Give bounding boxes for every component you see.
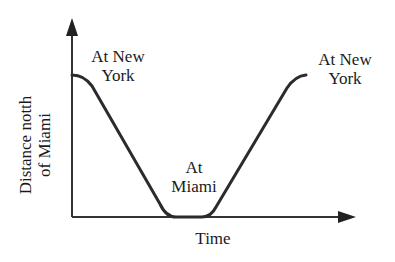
annotation-start-new-york: At New York (78, 47, 158, 85)
y-axis-label-line1: Distance notth (16, 75, 35, 215)
distance-time-diagram: Distance notth of Miami Time At New York… (0, 0, 395, 262)
x-axis-arrow-icon (338, 211, 356, 223)
y-axis-label: Distance notth of Miami (16, 75, 56, 215)
x-axis-label: Time (183, 229, 243, 248)
plot-area (0, 0, 395, 262)
annotation-middle-miami: At Miami (164, 158, 224, 196)
y-axis-arrow-icon (66, 18, 78, 36)
y-axis-label-line2: of Miami (35, 75, 54, 215)
annotation-end-new-york: At New York (305, 50, 385, 88)
